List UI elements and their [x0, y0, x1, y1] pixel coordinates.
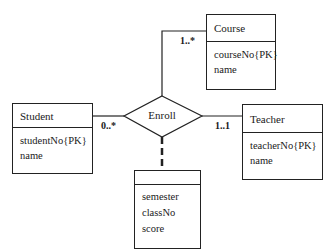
enroll-label: Enroll	[132, 109, 192, 121]
student-attribute: name	[20, 148, 92, 163]
student-entity-header: Student	[13, 104, 92, 128]
course-entity[interactable]: Course courseNo{PK} name	[206, 14, 276, 90]
teacher-entity[interactable]: Teacher teacherNo{PK} name	[242, 104, 323, 180]
student-entity[interactable]: Student studentNo{PK} name	[12, 103, 93, 174]
student-entity-name: Student	[20, 110, 54, 122]
enroll-attribute: classNo	[142, 205, 200, 221]
enroll-association-class[interactable]: semester classNo score	[134, 170, 201, 249]
course-attribute: courseNo{PK}	[214, 47, 275, 62]
enroll-association-header	[135, 171, 200, 185]
teacher-attribute: name	[250, 153, 322, 168]
student-attribute: studentNo{PK}	[20, 133, 92, 148]
student-attributes: studentNo{PK} name	[13, 128, 92, 163]
multiplicity-course: 1..*	[180, 35, 195, 46]
course-attribute: name	[214, 62, 275, 77]
enroll-attributes: semester classNo score	[135, 185, 200, 237]
course-entity-header: Course	[207, 15, 275, 42]
teacher-attribute: teacherNo{PK}	[250, 138, 322, 153]
course-entity-name: Course	[214, 22, 245, 34]
teacher-entity-header: Teacher	[243, 105, 322, 133]
multiplicity-student: 0..*	[101, 120, 116, 131]
multiplicity-teacher: 1..1	[215, 120, 230, 131]
teacher-attributes: teacherNo{PK} name	[243, 133, 322, 168]
enroll-attribute: semester	[142, 189, 200, 205]
enroll-attribute: score	[142, 221, 200, 237]
teacher-entity-name: Teacher	[250, 113, 285, 125]
course-attributes: courseNo{PK} name	[207, 42, 275, 77]
